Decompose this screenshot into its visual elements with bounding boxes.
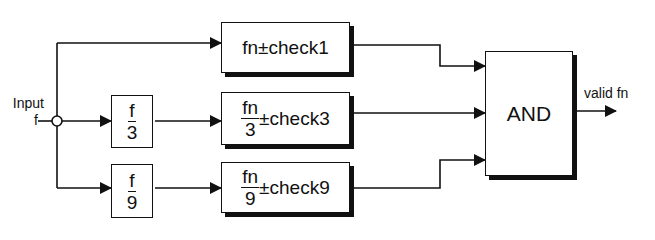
path-check1-to-and <box>354 45 485 66</box>
divider-fraction: f 3 <box>127 101 138 142</box>
output-label: valid fn <box>584 86 628 100</box>
path-check9-to-and <box>354 160 485 188</box>
check1-prefix: fn <box>242 37 258 59</box>
check-box-1: fn±check1 <box>221 22 350 73</box>
fraction-numerator: f <box>128 171 135 192</box>
fraction-numerator: fn <box>241 98 259 119</box>
fraction-denominator: 3 <box>245 119 256 139</box>
and-gate-box: AND <box>485 51 573 176</box>
divider-box-3: f 3 <box>111 95 153 148</box>
input-label-line1: Input <box>6 96 44 110</box>
input-label: Input f <box>6 96 44 127</box>
and-gate-label: AND <box>507 102 551 126</box>
fraction-denominator: 9 <box>245 188 256 208</box>
fraction-denominator: 3 <box>127 122 138 142</box>
check1-suffix: ±check1 <box>258 37 329 59</box>
check3-fraction: fn 3 <box>241 98 259 139</box>
divider-fraction: f 9 <box>127 171 138 212</box>
check3-suffix: ±check3 <box>259 108 330 130</box>
check9-fraction: fn 9 <box>241 167 259 208</box>
fraction-numerator: fn <box>241 167 259 188</box>
fraction-denominator: 9 <box>127 192 138 212</box>
fraction-numerator: f <box>128 101 135 122</box>
check-box-9: fn 9 ±check9 <box>221 162 350 213</box>
divider-box-9: f 9 <box>111 164 153 218</box>
input-label-line2: f <box>6 113 44 127</box>
junction-node <box>52 116 62 126</box>
check9-suffix: ±check9 <box>259 177 330 199</box>
check-box-3: fn 3 ±check3 <box>221 92 350 145</box>
